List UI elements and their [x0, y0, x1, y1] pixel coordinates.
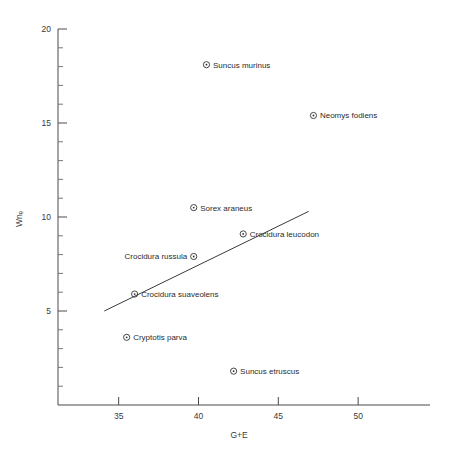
- data-point[interactable]: Suncus murinus: [203, 61, 270, 70]
- data-point[interactable]: Cryptotis parva: [124, 333, 188, 342]
- point-label: Crocidura leucodon: [250, 230, 319, 239]
- data-points-group: Suncus murinusNeomys fodiensSorex araneu…: [124, 61, 378, 376]
- plot-canvas: 510152035404550 Suncus murinusNeomys fod…: [0, 0, 451, 450]
- tick-labels-group: 510152035404550: [42, 24, 364, 421]
- point-marker-dot: [206, 64, 208, 66]
- axis-lines: [58, 29, 430, 405]
- data-point[interactable]: Sorex araneus: [191, 204, 253, 213]
- data-point[interactable]: Crocidura leucodon: [240, 230, 319, 239]
- y-tick-label: 10: [42, 212, 52, 222]
- scatter-plot-figure: 510152035404550 Suncus murinusNeomys fod…: [0, 0, 451, 450]
- data-point[interactable]: Crocidura suaveolens: [132, 290, 219, 299]
- point-label: Suncus etruscus: [240, 367, 299, 376]
- y-axis-title: Wnₑ: [14, 211, 24, 227]
- y-tick-label: 5: [46, 306, 51, 316]
- point-label: Crocidura suaveolens: [141, 290, 218, 299]
- point-label: Sorex araneus: [200, 204, 252, 213]
- point-label: Suncus murinus: [213, 61, 270, 70]
- point-marker-dot: [242, 233, 244, 235]
- point-marker-dot: [126, 336, 128, 338]
- point-marker-dot: [313, 115, 315, 117]
- point-label: Neomys fodiens: [320, 111, 377, 120]
- y-tick-label: 15: [42, 118, 52, 128]
- point-label: Cryptotis parva: [133, 333, 187, 342]
- point-marker-dot: [193, 256, 195, 258]
- x-tick-label: 50: [353, 411, 363, 421]
- point-marker-dot: [233, 370, 235, 372]
- y-tick-label: 20: [42, 24, 52, 34]
- point-label: Crocidura russula: [125, 252, 188, 261]
- ticks-group: [58, 29, 358, 405]
- axis-titles-group: G+EWnₑ: [14, 211, 248, 440]
- x-axis-title: G+E: [230, 430, 248, 440]
- axes-group: [58, 29, 430, 405]
- point-marker-dot: [193, 207, 195, 209]
- data-point[interactable]: Neomys fodiens: [310, 111, 377, 120]
- point-marker-dot: [134, 293, 136, 295]
- x-tick-label: 40: [194, 411, 204, 421]
- x-tick-label: 45: [274, 411, 284, 421]
- data-point[interactable]: Crocidura russula: [125, 252, 197, 261]
- x-tick-label: 35: [114, 411, 124, 421]
- data-point[interactable]: Suncus etruscus: [231, 367, 300, 376]
